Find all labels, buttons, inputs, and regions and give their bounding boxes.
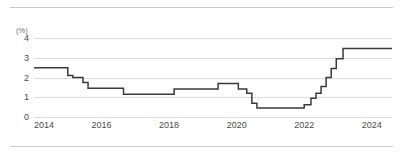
top-divider-rule [10, 7, 393, 8]
chart-container: (%) 01234 201420162018202020222024 [0, 0, 403, 154]
y-tick-label-2: 2 [24, 73, 29, 82]
y-tick-label-1: 1 [24, 93, 29, 102]
series-step-line [34, 38, 392, 117]
x-tick-label-2018: 2018 [159, 120, 179, 130]
bottom-divider-rule [10, 146, 393, 147]
x-tick-label-2024: 2024 [362, 120, 382, 130]
x-tick-label-2022: 2022 [294, 120, 314, 130]
gridline-y-0 [34, 117, 392, 118]
y-tick-label-4: 4 [24, 34, 29, 43]
x-tick-label-2020: 2020 [227, 120, 247, 130]
series-path [34, 48, 392, 108]
y-tick-label-0: 0 [24, 113, 29, 122]
plot-area: 01234 201420162018202020222024 [34, 38, 392, 117]
x-tick-label-2016: 2016 [92, 120, 112, 130]
x-tick-label-2014: 2014 [34, 120, 54, 130]
y-tick-label-3: 3 [24, 53, 29, 62]
